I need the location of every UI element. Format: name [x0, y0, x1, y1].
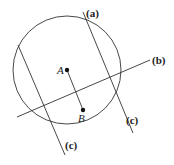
- label-a: (a): [86, 7, 99, 20]
- point-a: [65, 68, 69, 72]
- label-b: (b): [152, 54, 166, 67]
- point-b-label: B: [78, 112, 85, 124]
- point-a-label: A: [56, 64, 64, 76]
- line-c-left: [18, 45, 65, 155]
- geometry-diagram: A B (a) (b) (c) (c): [0, 0, 174, 165]
- label-c-right: (c): [126, 114, 139, 127]
- label-c-left: (c): [65, 139, 78, 152]
